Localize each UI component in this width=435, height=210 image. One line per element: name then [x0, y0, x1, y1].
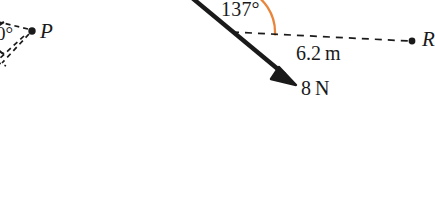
partial-angle-label-left: 0° — [0, 24, 13, 43]
point-r-label: R — [422, 29, 435, 50]
point-r-dot — [409, 38, 416, 45]
angle-label-137: 137° — [221, 0, 260, 19]
dashed-baseline — [232, 32, 409, 41]
point-p-label: P — [40, 21, 53, 42]
force-magnitude-label: 8 N — [301, 78, 329, 98]
point-p-dot — [28, 27, 35, 34]
distance-label: 6.2 m — [296, 43, 341, 63]
force-vector-arrowhead — [271, 67, 296, 85]
